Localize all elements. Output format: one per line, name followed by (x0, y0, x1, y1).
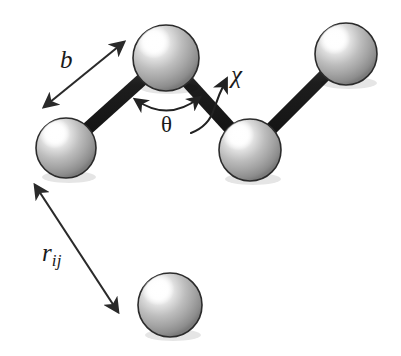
pair-distance-base: r (42, 239, 52, 266)
bond-angle-arc (136, 98, 199, 111)
pair-distance-label: rij (42, 240, 62, 269)
atom-sphere-3 (219, 119, 281, 185)
torsion-angle-label: χ (231, 62, 242, 87)
bond-length-label: b (60, 47, 73, 72)
molecular-geometry-figure: b θ χ rij (0, 0, 401, 356)
atom-sphere-5-isolated (138, 273, 202, 341)
pair-distance-subscript: ij (52, 251, 62, 270)
bond-group (66, 54, 346, 150)
bond-angle-label: θ (161, 113, 172, 136)
bond-length-arrow (44, 42, 124, 107)
atom-sphere-1 (36, 118, 96, 183)
